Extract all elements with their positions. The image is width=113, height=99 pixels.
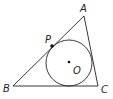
triangle-abc bbox=[13, 16, 98, 86]
label-a: A bbox=[79, 3, 87, 14]
label-b: B bbox=[3, 83, 10, 94]
label-p: P bbox=[45, 34, 52, 45]
center-o-dot bbox=[68, 61, 71, 64]
geometry-diagram: A P O B C bbox=[0, 0, 113, 99]
label-o: O bbox=[73, 65, 81, 76]
label-c: C bbox=[101, 84, 108, 95]
